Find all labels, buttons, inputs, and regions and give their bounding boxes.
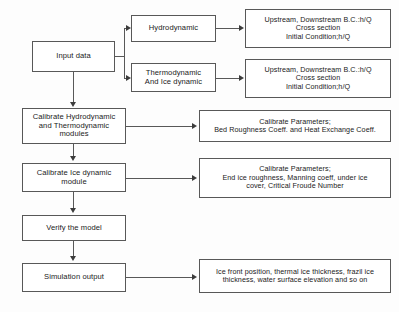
node-thermo-conditions-label: Upstream, Downstream B.C.:h/Q Cross sect… bbox=[249, 66, 387, 91]
node-calibrate-params-2-label: Calibrate Parameters; End ice roughness,… bbox=[203, 165, 387, 190]
connector-calibrate-ice-to-params bbox=[126, 178, 193, 179]
connector-input-to-calibrate-hydro bbox=[73, 72, 74, 103]
node-simulation-output[interactable]: Simulation output bbox=[22, 263, 126, 292]
arrowhead-simulation-results bbox=[192, 274, 197, 280]
node-verify-model[interactable]: Verify the model bbox=[22, 215, 126, 241]
connector-input-branch-spine bbox=[124, 28, 125, 78]
node-calibrate-hydro-thermo-label: Calibrate Hydrodynamic and Thermodynamic… bbox=[26, 113, 122, 140]
arrowhead-calibrate-params-1 bbox=[192, 123, 197, 129]
node-calibrate-params-1-label: Calibrate Parameters; Bed Roughness Coef… bbox=[203, 118, 387, 135]
arrowhead-to-thermodynamic bbox=[126, 75, 131, 81]
node-simulation-results-label: Ice front position, thermal ice thicknes… bbox=[203, 268, 387, 285]
connector-calibrate-hydro-to-params bbox=[126, 126, 193, 127]
arrowhead-calibrate-params-2 bbox=[192, 175, 197, 181]
node-thermo-conditions[interactable]: Upstream, Downstream B.C.:h/Q Cross sect… bbox=[245, 59, 391, 98]
arrowhead-simulation-output bbox=[70, 256, 76, 261]
node-calibrate-params-2[interactable]: Calibrate Parameters; End ice roughness,… bbox=[199, 158, 391, 198]
arrowhead-calibrate-hydro bbox=[70, 102, 76, 107]
node-calibrate-ice-label: Calibrate Ice dynamic module bbox=[26, 169, 122, 187]
node-hydro-conditions[interactable]: Upstream, Downstream B.C.:h/Q Cross sect… bbox=[245, 9, 391, 48]
arrowhead-calibrate-ice bbox=[70, 156, 76, 161]
arrowhead-verify-model bbox=[70, 208, 76, 213]
flowchart-canvas: Input data Hydrodynamic Thermodynamic An… bbox=[0, 0, 399, 312]
node-hydro-conditions-label: Upstream, Downstream B.C.:h/Q Cross sect… bbox=[249, 16, 387, 41]
node-simulation-results[interactable]: Ice front position, thermal ice thicknes… bbox=[199, 259, 391, 293]
node-thermodynamic[interactable]: Thermodynamic And Ice dynamic bbox=[131, 63, 216, 92]
connector-thermodynamic-to-conditions bbox=[216, 78, 240, 79]
arrowhead-to-hydrodynamic bbox=[126, 25, 131, 31]
node-calibrate-ice[interactable]: Calibrate Ice dynamic module bbox=[22, 163, 126, 192]
arrowhead-thermo-conditions bbox=[239, 75, 244, 81]
node-input-data[interactable]: Input data bbox=[32, 41, 115, 72]
connector-hydrodynamic-to-conditions bbox=[216, 28, 240, 29]
node-hydrodynamic-label: Hydrodynamic bbox=[135, 24, 212, 33]
node-verify-model-label: Verify the model bbox=[26, 224, 122, 233]
node-thermodynamic-label: Thermodynamic And Ice dynamic bbox=[135, 69, 212, 87]
node-simulation-output-label: Simulation output bbox=[26, 273, 122, 282]
node-calibrate-params-1[interactable]: Calibrate Parameters; Bed Roughness Coef… bbox=[199, 110, 391, 142]
node-input-data-label: Input data bbox=[36, 52, 111, 61]
connector-verify-to-simulation bbox=[73, 241, 74, 256]
node-hydrodynamic[interactable]: Hydrodynamic bbox=[131, 15, 216, 42]
node-calibrate-hydro-thermo[interactable]: Calibrate Hydrodynamic and Thermodynamic… bbox=[22, 108, 126, 144]
connector-simulation-to-results bbox=[126, 277, 193, 278]
arrowhead-hydro-conditions bbox=[239, 25, 244, 31]
connector-calibrate-ice-to-verify bbox=[73, 192, 74, 209]
